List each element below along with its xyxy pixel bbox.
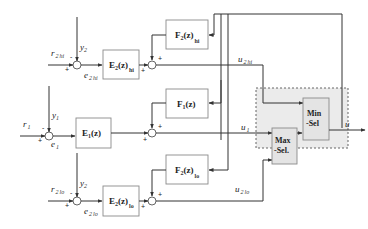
label-block-f1: F1(z) bbox=[177, 99, 196, 110]
label-r2-hi: r2hi bbox=[51, 48, 65, 59]
label-u-output: u bbox=[345, 119, 350, 129]
label-r1: r1 bbox=[23, 119, 31, 130]
sign-plus-e2-lo: + bbox=[65, 202, 69, 209]
summing-junction-e2-lo bbox=[73, 197, 81, 205]
label-u2-hi: u2hi bbox=[238, 54, 253, 65]
label-max-sel-2: -Sel. bbox=[274, 146, 289, 155]
label-e1: e1 bbox=[51, 139, 59, 150]
f1-input-line bbox=[209, 80, 221, 103]
sign-minus-e2-hi: - bbox=[70, 53, 73, 60]
sign-plus-u2-hi-b: + bbox=[141, 67, 145, 74]
label-min-sel-2: -Sel bbox=[306, 119, 320, 128]
f2-lo-input-line bbox=[209, 140, 228, 170]
label-min-sel-1: Min bbox=[307, 109, 322, 118]
label-u2-lo: u2lo bbox=[235, 184, 249, 195]
summing-junction-u2-lo bbox=[148, 197, 156, 205]
label-y1: y1 bbox=[51, 110, 59, 121]
sign-plus-u2-lo-b: + bbox=[141, 203, 145, 210]
f2-hi-input-line bbox=[209, 14, 214, 35]
sign-plus-u2-lo-a: + bbox=[158, 191, 162, 198]
sign-plus-u2-hi-a: + bbox=[158, 55, 162, 62]
label-block-e1: E1(z) bbox=[82, 128, 101, 139]
selector-zone bbox=[256, 88, 348, 148]
control-block-diagram: y2 r2hi - + e2hi E2(z)hi + + F2(z)hi u2h… bbox=[0, 0, 368, 229]
sign-minus-e1: - bbox=[42, 124, 45, 131]
sign-plus-e1: + bbox=[38, 137, 42, 144]
summing-junction-e2-hi bbox=[73, 61, 81, 69]
label-max-sel-1: Max bbox=[275, 136, 291, 145]
label-y2-bottom: y2 bbox=[79, 178, 87, 189]
label-e2-hi: e2hi bbox=[84, 70, 98, 81]
label-r2-lo: r2lo bbox=[51, 184, 64, 195]
sign-plus-e2-hi: + bbox=[65, 66, 69, 73]
sign-plus-u1-a: + bbox=[158, 123, 162, 130]
label-e2-lo: e2lo bbox=[84, 206, 98, 217]
label-y2-top: y2 bbox=[79, 42, 87, 53]
sign-plus-u1-b: + bbox=[143, 136, 147, 143]
label-u1: u1 bbox=[241, 122, 250, 133]
sign-minus-e2-lo: - bbox=[70, 189, 73, 196]
summing-junction-u1 bbox=[148, 129, 156, 137]
summing-junction-u2-hi bbox=[148, 61, 156, 69]
